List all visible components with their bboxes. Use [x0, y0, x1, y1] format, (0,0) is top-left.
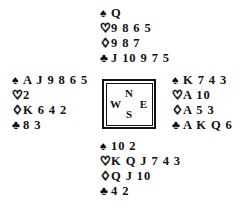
west-spades-row: ♠ A J 9 8 6 5 [12, 73, 88, 88]
diamond-icon: ♢ [12, 103, 23, 118]
club-icon: ♣ [100, 184, 111, 199]
hand-north: ♠ Q ♡ 9 8 6 5 ♢ 9 8 7 ♣ J 10 9 7 5 [100, 6, 170, 66]
south-diamonds-cards: Q J 10 [111, 169, 151, 184]
compass-east-label: E [140, 99, 147, 110]
north-spades-cards: Q [111, 6, 122, 21]
hand-west: ♠ A J 9 8 6 5 ♡ 2 ♢ K 6 4 2 ♣ 8 3 [12, 73, 88, 133]
south-diamonds-row: ♢ Q J 10 [100, 169, 181, 184]
hand-east: ♠ K 7 4 3 ♡ A 10 ♢ A 5 3 ♣ A K Q 6 [172, 73, 233, 133]
diamond-icon: ♢ [172, 103, 183, 118]
compass-south-label: S [104, 109, 154, 120]
east-diamonds-row: ♢ A 5 3 [172, 103, 233, 118]
south-spades-row: ♠ 10 2 [100, 139, 181, 154]
heart-icon: ♡ [12, 88, 23, 103]
spade-icon: ♠ [12, 73, 23, 88]
south-hearts-row: ♡ K Q J 7 4 3 [100, 154, 181, 169]
spade-icon: ♠ [100, 139, 111, 154]
north-clubs-row: ♣ J 10 9 7 5 [100, 51, 170, 66]
west-hearts-cards: 2 [23, 88, 30, 103]
west-spades-cards: A J 9 8 6 5 [23, 73, 88, 88]
north-hearts-row: ♡ 9 8 6 5 [100, 21, 170, 36]
east-clubs-row: ♣ A K Q 6 [172, 118, 233, 133]
north-clubs-cards: J 10 9 7 5 [111, 51, 170, 66]
diamond-icon: ♢ [100, 36, 111, 51]
spade-icon: ♠ [100, 6, 111, 21]
west-hearts-row: ♡ 2 [12, 88, 88, 103]
west-clubs-cards: 8 3 [23, 118, 41, 133]
heart-icon: ♡ [172, 88, 183, 103]
compass-west-label: W [110, 99, 121, 110]
compass-box: N W E S [102, 79, 156, 129]
east-hearts-cards: A 10 [183, 88, 211, 103]
east-diamonds-cards: A 5 3 [183, 103, 215, 118]
diamond-icon: ♢ [100, 169, 111, 184]
north-diamonds-row: ♢ 9 8 7 [100, 36, 170, 51]
east-hearts-row: ♡ A 10 [172, 88, 233, 103]
east-clubs-cards: A K Q 6 [183, 118, 233, 133]
heart-icon: ♡ [100, 154, 111, 169]
north-diamonds-cards: 9 8 7 [111, 36, 141, 51]
south-hearts-cards: K Q J 7 4 3 [111, 154, 181, 169]
south-clubs-row: ♣ 4 2 [100, 184, 181, 199]
west-clubs-row: ♣ 8 3 [12, 118, 88, 133]
east-spades-cards: K 7 4 3 [183, 73, 227, 88]
club-icon: ♣ [172, 118, 183, 133]
west-diamonds-row: ♢ K 6 4 2 [12, 103, 88, 118]
heart-icon: ♡ [100, 21, 111, 36]
hand-south: ♠ 10 2 ♡ K Q J 7 4 3 ♢ Q J 10 ♣ 4 2 [100, 139, 181, 199]
west-diamonds-cards: K 6 4 2 [23, 103, 67, 118]
club-icon: ♣ [12, 118, 23, 133]
club-icon: ♣ [100, 51, 111, 66]
south-spades-cards: 10 2 [111, 139, 136, 154]
east-spades-row: ♠ K 7 4 3 [172, 73, 233, 88]
spade-icon: ♠ [172, 73, 183, 88]
north-hearts-cards: 9 8 6 5 [111, 21, 152, 36]
bridge-deal-diagram: ♠ Q ♡ 9 8 6 5 ♢ 9 8 7 ♣ J 10 9 7 5 ♠ A J… [0, 0, 245, 210]
south-clubs-cards: 4 2 [111, 184, 129, 199]
north-spades-row: ♠ Q [100, 6, 170, 21]
